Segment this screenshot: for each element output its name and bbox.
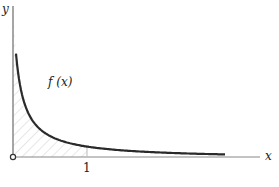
origin-marker — [10, 154, 15, 159]
y-axis-label: y — [1, 2, 9, 16]
diagram: y x f (x) 1 — [0, 0, 279, 187]
x-axis-label: x — [265, 149, 272, 163]
curve-label: f (x) — [47, 75, 73, 89]
tick-label-1: 1 — [83, 161, 91, 175]
